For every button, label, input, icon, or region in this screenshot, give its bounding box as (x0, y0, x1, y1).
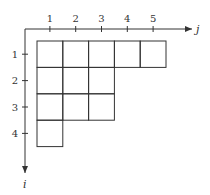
diagram-cell (37, 41, 63, 67)
i-tick-label: 4 (12, 128, 18, 139)
diagram-cell (89, 94, 115, 120)
diagram-cell (63, 94, 89, 120)
diagram-cells (37, 41, 166, 147)
diagram-cell (37, 120, 63, 146)
diagram-cell (37, 67, 63, 93)
i-tick-label: 1 (12, 49, 18, 60)
diagram-cell (114, 41, 140, 67)
j-tick-label: 1 (47, 13, 53, 24)
diagram-cell (140, 41, 166, 67)
i-tick-label: 2 (12, 75, 18, 86)
i-tick-label: 3 (12, 102, 18, 113)
i-axis: 1234 i (12, 29, 28, 191)
j-tick-label: 3 (98, 13, 104, 24)
diagram-cell (63, 67, 89, 93)
diagram-cell (63, 41, 89, 67)
diagram-cell (37, 94, 63, 120)
diagram-cell (89, 41, 115, 67)
j-tick-label: 2 (73, 13, 79, 24)
diagram-cell (89, 67, 115, 93)
young-diagram-canvas: 12345 j 1234 i (0, 0, 210, 195)
i-axis-label: i (23, 178, 27, 191)
j-tick-label: 4 (124, 13, 130, 24)
j-axis: 12345 j (25, 13, 200, 36)
j-axis-label: j (193, 23, 200, 36)
j-tick-label: 5 (150, 13, 156, 24)
